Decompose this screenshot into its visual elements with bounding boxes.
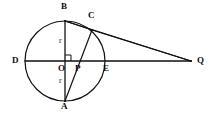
vertex-dot-c bbox=[91, 29, 93, 31]
point-label-d: D bbox=[12, 56, 19, 65]
point-label-p: P bbox=[75, 64, 81, 73]
geometry-figure: B C D O P E A Q r r bbox=[0, 0, 212, 113]
right-angle-mark-at-o bbox=[65, 55, 71, 61]
point-label-q: Q bbox=[197, 56, 204, 65]
point-label-e: E bbox=[103, 64, 109, 73]
point-label-c: C bbox=[88, 11, 95, 20]
vertex-dot-b bbox=[64, 20, 66, 22]
vertex-dot-q bbox=[190, 60, 192, 62]
point-label-b: B bbox=[61, 2, 67, 11]
point-label-a: A bbox=[61, 102, 68, 111]
length-label-radius-lower: r bbox=[59, 77, 62, 85]
point-label-o: O bbox=[58, 64, 65, 73]
length-label-radius-upper: r bbox=[59, 37, 62, 45]
segment-c-q bbox=[92, 30, 191, 61]
geometry-canvas bbox=[0, 0, 212, 113]
